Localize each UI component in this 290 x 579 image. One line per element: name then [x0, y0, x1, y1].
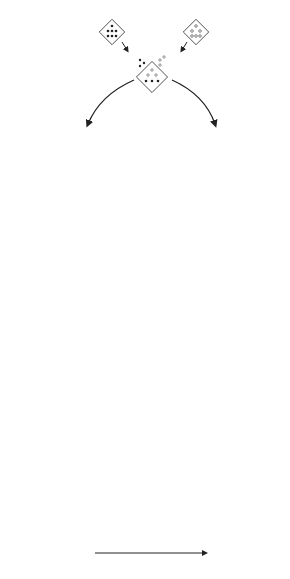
arrow-left-parent [122, 42, 127, 50]
f1-square [136, 56, 167, 93]
polygenic-inheritance-figure [0, 0, 290, 579]
arrow-to-male-gametes [88, 80, 134, 124]
arrow-right-parent [182, 42, 187, 50]
parent-left-square [99, 19, 124, 44]
arrow-to-female-gametes [172, 80, 215, 124]
parent-right-square [183, 19, 208, 44]
